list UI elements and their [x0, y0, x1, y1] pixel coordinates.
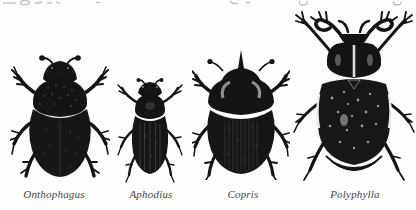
copris-illustration	[192, 50, 290, 180]
book-page-figure: Onthophagus Aphodius Copris Polyphylla	[0, 0, 416, 210]
caption-copris: Copris	[193, 187, 293, 201]
aphodius-illustration	[112, 76, 188, 184]
polyphylla-illustration	[292, 8, 416, 182]
caption-polyphylla: Polyphylla	[305, 187, 405, 201]
caption-onthophagus: Onthophagus	[4, 187, 104, 201]
caption-aphodius: Aphodius	[111, 187, 191, 201]
onthophagus-illustration	[10, 54, 110, 184]
